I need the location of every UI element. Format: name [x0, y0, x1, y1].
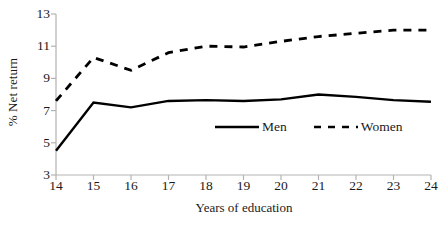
- series-line-women: [56, 30, 431, 101]
- x-axis-tick-labels: 1415161718192021222324: [56, 178, 432, 196]
- x-axis-tick-label: 14: [41, 178, 71, 194]
- x-axis-tick-label: 22: [341, 178, 371, 194]
- chart-container: % Net return 35791113 141516171819202122…: [0, 0, 445, 227]
- y-axis-tick-label: 5: [26, 136, 50, 150]
- y-axis-tick-label: 11: [26, 39, 50, 53]
- x-axis-tick-label: 19: [229, 178, 259, 194]
- x-axis-tick-label: 23: [379, 178, 409, 194]
- x-axis-tick-label: 20: [266, 178, 296, 194]
- x-axis-tick-label: 18: [191, 178, 221, 194]
- legend-solid-line-icon: [214, 120, 260, 134]
- y-axis-tick-label: 13: [26, 7, 50, 21]
- x-axis-title: Years of education: [56, 200, 432, 216]
- y-axis-title: % Net return: [4, 2, 22, 182]
- x-axis-tick-label: 15: [79, 178, 109, 194]
- y-axis-tick-label: 9: [26, 71, 50, 85]
- x-axis-tick-label: 21: [304, 178, 334, 194]
- legend-entry-men: Men: [214, 120, 287, 134]
- legend-dashed-line-icon: [313, 120, 359, 134]
- x-axis-tick-label: 24: [416, 178, 445, 194]
- x-axis-tick-label: 17: [154, 178, 184, 194]
- x-axis-tick-label: 16: [116, 178, 146, 194]
- legend-entry-women: Women: [313, 120, 403, 134]
- legend-label-women: Women: [359, 120, 403, 134]
- legend-label-men: Men: [260, 120, 287, 134]
- chart-legend: Men Women: [214, 118, 402, 136]
- y-axis-tick-label: 7: [26, 104, 50, 118]
